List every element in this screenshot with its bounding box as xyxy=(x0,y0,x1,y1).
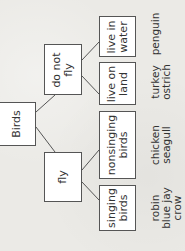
edge-donotfly-water xyxy=(82,42,99,60)
edge-donotfly-land xyxy=(82,76,99,94)
node-nonsinging-birds: nonsinging birds xyxy=(99,111,136,179)
node-singing-birds: singing birds xyxy=(99,185,136,231)
node-do-not-fly: do not fly xyxy=(44,44,82,95)
node-birds: Birds xyxy=(0,102,36,146)
node-fly-label: fly xyxy=(57,170,69,183)
node-live-in-water-label: live in water xyxy=(106,20,130,53)
examples-nonsinging-birds: chicken seagull xyxy=(150,125,172,165)
edge-fly-singing xyxy=(82,182,99,200)
node-live-on-land: live on land xyxy=(99,62,136,105)
node-singing-birds-label: singing birds xyxy=(106,188,130,228)
node-birds-label: Birds xyxy=(11,110,23,138)
node-live-on-land-label: live on land xyxy=(106,65,130,102)
examples-live-on-land: turkey ostrich xyxy=(150,64,172,100)
edge-fly-nonsinging xyxy=(82,150,99,170)
edge-birds-fly xyxy=(36,127,55,152)
node-live-in-water: live in water xyxy=(99,16,136,57)
edge-birds-donotfly xyxy=(36,95,55,112)
node-do-not-fly-label: do not fly xyxy=(51,52,75,87)
node-nonsinging-birds-label: nonsinging birds xyxy=(106,115,130,175)
node-fly: fly xyxy=(44,152,82,202)
examples-live-in-water: penguin xyxy=(150,13,161,56)
examples-singing-birds: robin blue jay crow xyxy=(150,187,183,229)
